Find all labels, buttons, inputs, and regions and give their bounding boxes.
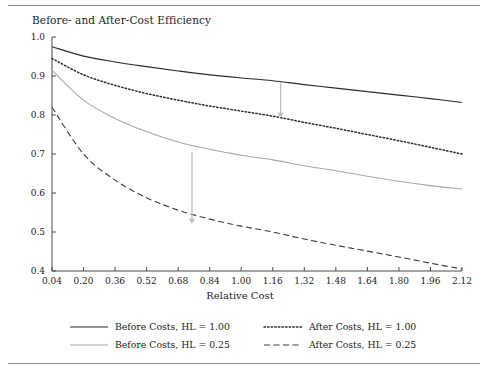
x-tick-label: 1.16	[263, 276, 283, 286]
chart-canvas: 0.40.50.60.70.80.91.0 0.040.200.360.520.…	[0, 0, 488, 378]
series-line	[52, 58, 462, 154]
y-tick-label: 0.7	[31, 149, 46, 159]
x-tick-label: 0.36	[105, 276, 125, 286]
series-line	[52, 47, 462, 103]
bottom-divider-rule	[8, 363, 480, 364]
x-tick-label: 1.64	[357, 276, 377, 286]
legend-label: After Costs, HL = 0.25	[308, 339, 416, 350]
annotations	[189, 82, 284, 224]
y-tick-label: 0.5	[31, 227, 46, 237]
x-tick-label: 1.48	[326, 276, 346, 286]
x-tick-label: 0.68	[168, 276, 188, 286]
series-line	[52, 70, 462, 189]
y-tick-label: 0.8	[31, 110, 46, 120]
axes	[52, 37, 462, 271]
x-tick-label: 1.32	[294, 276, 314, 286]
x-tick-label: 0.52	[137, 276, 157, 286]
y-tick-label: 0.4	[31, 266, 46, 276]
y-tick-label: 1.0	[31, 32, 46, 42]
x-tick-label: 0.04	[42, 276, 62, 286]
x-axis-ticks: 0.040.200.360.520.680.841.001.161.321.48…	[42, 267, 472, 286]
legend-label: After Costs, HL = 1.00	[308, 321, 416, 332]
x-tick-label: 1.00	[231, 276, 251, 286]
x-tick-label: 1.80	[389, 276, 409, 286]
y-tick-label: 0.6	[31, 188, 46, 198]
x-axis-title: Relative Cost	[206, 290, 273, 301]
x-tick-label: 0.20	[74, 276, 94, 286]
legend-label: Before Costs, HL = 0.25	[115, 339, 230, 350]
legend-label: Before Costs, HL = 1.00	[115, 321, 230, 332]
x-tick-label: 1.96	[420, 276, 440, 286]
annotation-arrow-head	[189, 219, 195, 224]
series-line	[52, 107, 462, 269]
y-tick-label: 0.9	[31, 71, 46, 81]
chart-legend: Before Costs, HL = 1.00After Costs, HL =…	[70, 321, 416, 350]
data-series	[52, 47, 462, 269]
x-tick-label: 0.84	[200, 276, 220, 286]
x-tick-label: 2.12	[452, 276, 472, 286]
